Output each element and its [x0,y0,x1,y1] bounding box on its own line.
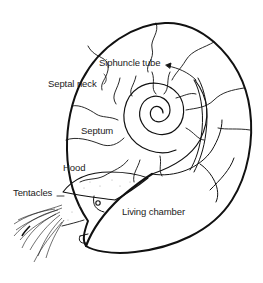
label-septal-neck: Septal neck [48,79,97,89]
spiral-whorl [124,83,184,152]
label-hood: Hood [63,163,85,173]
siphuncle-tube [190,78,207,172]
arrowhead [166,63,171,68]
label-tentacles: Tentacles [13,188,52,198]
eye-icon [96,201,100,205]
living-chamber-rear [200,158,234,202]
label-siphuncle-tube: Siphuncle tube [99,58,160,68]
nautilus-diagram [0,0,263,283]
septa [66,23,250,182]
label-septum: Septum [81,126,113,136]
siphuncle-arrow [168,66,196,80]
tentacles [14,205,64,262]
label-living-chamber: Living chamber [122,207,185,217]
body-underside [62,220,84,226]
